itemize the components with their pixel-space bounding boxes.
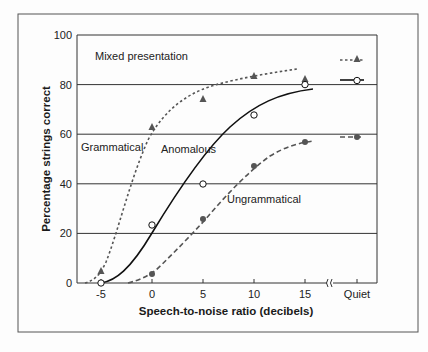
open-circle-marker: [302, 81, 308, 87]
filled-circle-marker: [302, 139, 308, 145]
y-tick-60: 60: [60, 128, 72, 140]
filled-circle-marker: [354, 134, 360, 140]
x-axis-title: Speech-to-noise ratio (decibels): [139, 305, 314, 317]
x-tick-quiet: Quiet: [344, 288, 370, 300]
label-anomalous: Anomalous: [161, 143, 217, 155]
label-ungrammatical: Ungrammatical: [227, 193, 301, 205]
y-tick-20: 20: [60, 227, 72, 239]
x-tick-neg5: -5: [96, 288, 106, 300]
open-circle-marker: [354, 77, 360, 83]
x-tick-5: 5: [200, 288, 206, 300]
filled-circle-marker: [200, 216, 206, 222]
y-tick-100: 100: [54, 29, 72, 41]
filled-circle-marker: [251, 163, 257, 169]
open-circle-marker: [251, 112, 257, 118]
y-tick-40: 40: [60, 178, 72, 190]
label-mixed-presentation: Mixed presentation: [95, 50, 188, 62]
y-axis-title: Percentage strings correct: [40, 86, 52, 232]
x-tick-0: 0: [149, 288, 155, 300]
chart-figure: 0 20 40 60 80 100 -5 0 5 10 15 Quiet Spe…: [0, 0, 428, 352]
x-tick-10: 10: [248, 288, 260, 300]
y-tick-0: 0: [66, 277, 72, 289]
filled-circle-marker: [149, 271, 155, 277]
open-circle-marker: [149, 222, 155, 228]
label-grammatical: Grammatical: [81, 141, 143, 153]
y-tick-80: 80: [60, 79, 72, 91]
open-circle-marker: [200, 181, 206, 187]
x-tick-15: 15: [299, 288, 311, 300]
open-circle-marker: [98, 280, 104, 286]
